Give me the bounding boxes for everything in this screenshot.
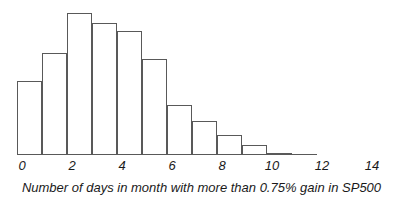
histogram-bar — [142, 59, 167, 155]
histogram-bar — [117, 31, 142, 155]
histogram-bar — [167, 105, 192, 155]
histogram-chart: 02468101214 Number of days in month with… — [0, 0, 403, 204]
x-tick-label: 4 — [107, 158, 137, 174]
x-tick-label: 0 — [7, 158, 37, 174]
x-tick-label: 8 — [207, 158, 237, 174]
histogram-bar — [192, 121, 217, 155]
histogram-bar — [217, 135, 242, 155]
x-axis-label: Number of days in month with more than 0… — [0, 180, 403, 195]
x-axis-tick-labels: 02468101214 — [0, 158, 403, 178]
histogram-bar — [67, 13, 92, 155]
x-tick-label: 14 — [357, 158, 387, 174]
histogram-bar — [92, 23, 117, 155]
x-tick-label: 6 — [157, 158, 187, 174]
histogram-bar — [42, 53, 67, 155]
x-tick-label: 10 — [257, 158, 287, 174]
x-axis-baseline — [17, 154, 317, 155]
x-tick-label: 12 — [307, 158, 337, 174]
plot-area — [0, 0, 403, 158]
x-tick-label: 2 — [57, 158, 87, 174]
histogram-bar — [17, 81, 42, 155]
